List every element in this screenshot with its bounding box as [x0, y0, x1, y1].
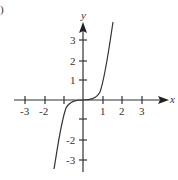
y-axis-label: y — [81, 10, 86, 21]
y-tick-label: -2 — [66, 135, 75, 146]
x-tick-label: 3 — [139, 106, 145, 117]
x-tick-label: -3 — [20, 106, 29, 117]
x-tick-label: 1 — [100, 106, 106, 117]
y-tick-label: 2 — [70, 56, 76, 67]
part-label: ) — [0, 4, 4, 15]
y-tick-label: 3 — [70, 35, 76, 46]
x-axis-label: x — [170, 94, 175, 105]
x-tick-label: -2 — [39, 106, 48, 117]
y-tick-label: 1 — [70, 75, 76, 86]
x-tick-label: 2 — [119, 106, 125, 117]
y-tick-label: -3 — [66, 155, 75, 166]
cubic-function-graph — [0, 0, 178, 180]
